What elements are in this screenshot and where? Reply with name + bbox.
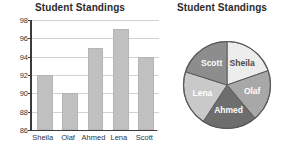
x-tick-label: Sheila <box>30 133 55 142</box>
pie-plot-area: SheilaOlafAhmedLenaScott <box>182 40 272 130</box>
x-axis-line <box>30 130 157 131</box>
pie-slice-label: Ahmed <box>214 105 243 115</box>
y-tick-label: 86 <box>8 126 28 135</box>
y-tick-label: 96 <box>8 34 28 43</box>
y-axis-tick-labels: 98969492908886 <box>2 20 28 130</box>
pie-chart-title: Student Standings <box>160 2 284 13</box>
bar <box>138 57 154 130</box>
bar <box>113 29 129 130</box>
bar-chart-title: Student Standings <box>0 2 160 13</box>
bar <box>88 48 104 131</box>
bar-chart: Student Standings 98969492908886 SheilaO… <box>0 0 160 164</box>
y-tick-label: 94 <box>8 53 28 62</box>
pie-slice-label: Scott <box>201 58 222 68</box>
y-tick-label: 92 <box>8 71 28 80</box>
pie-svg: SheilaOlafAhmedLenaScott <box>182 40 272 130</box>
two-chart-figure: Student Standings 98969492908886 SheilaO… <box>0 0 284 164</box>
pie-slice-label: Olaf <box>244 86 261 96</box>
x-tick-label: Olaf <box>55 133 80 142</box>
x-tick-label: Scott <box>132 133 157 142</box>
x-axis-tick-labels: SheilaOlafAhmedLenaScott <box>30 133 157 149</box>
y-tick-label: 88 <box>8 108 28 117</box>
bar-plot-area <box>30 20 157 130</box>
bar <box>37 75 53 130</box>
x-tick-label: Ahmed <box>81 133 106 142</box>
x-tick-label: Lena <box>106 133 131 142</box>
bar <box>62 93 78 130</box>
pie-chart: Student Standings SheilaOlafAhmedLenaSco… <box>160 0 284 164</box>
pie-slice-label: Sheila <box>230 58 255 68</box>
y-tick-label: 90 <box>8 89 28 98</box>
y-tick-label: 98 <box>8 16 28 25</box>
bar-series <box>32 20 159 130</box>
pie-slice-label: Lena <box>192 88 212 98</box>
